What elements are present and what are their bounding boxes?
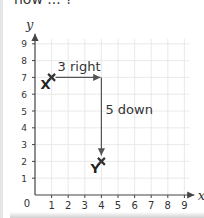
y-tick-label: 3 [21,140,27,150]
y-tick-label: 9 [21,39,27,49]
origin-label: 0 [24,198,30,209]
x-tick-label: 5 [115,200,121,211]
y-tick-label: 4 [21,123,27,133]
x-tick-label: 7 [148,200,154,211]
point-label-y: Y [89,161,100,176]
y-tick-label: 1 [21,174,27,184]
y-axis-label: y [25,17,34,32]
x-tick-label: 6 [131,200,137,211]
x-tick-label: 8 [165,200,171,211]
move-right-label: 3 right [58,59,101,74]
y-tick-label: 2 [21,157,27,167]
x-tick-label: 1 [48,200,54,211]
page-shadow [10,212,204,218]
y-tick-label: 6 [21,90,27,100]
x-axis-label: x [198,188,204,203]
x-tick-label: 4 [98,200,104,211]
move-down-label: 5 down [105,102,152,117]
y-tick-label: 7 [21,73,27,83]
x-tick-label: 9 [181,200,187,211]
coordinate-grid: 1234567891234567890xy 3 right5 downXY [0,0,204,218]
x-tick-label: 3 [82,200,88,211]
point-label-x: X [41,77,51,92]
y-tick-label: 5 [21,107,27,117]
x-tick-label: 2 [65,200,71,211]
y-tick-label: 8 [21,56,27,66]
